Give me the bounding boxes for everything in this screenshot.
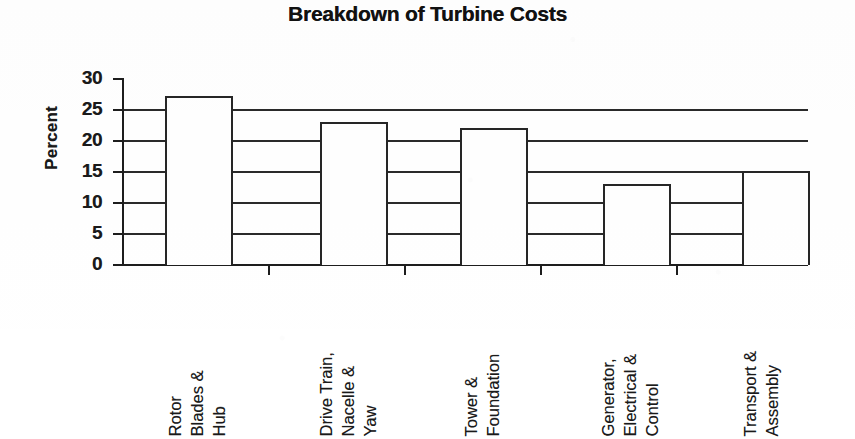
x-label-line: Generator, xyxy=(600,358,617,436)
x-label-line: Tower & xyxy=(463,376,480,436)
x-tick-mark-2 xyxy=(404,266,406,275)
y-tick-label-25: 25 xyxy=(62,99,102,118)
y-tick-label-15: 15 xyxy=(62,161,102,180)
x-label-line: Transport & xyxy=(742,350,759,436)
y-tick-label-0: 0 xyxy=(62,254,102,273)
x-tick-mark-1 xyxy=(268,266,270,275)
x-label-line: Assembly xyxy=(764,364,781,436)
x-label-line: Nacelle & xyxy=(340,365,357,436)
y-axis-tick-labels: 30 25 20 15 10 5 0 xyxy=(58,0,102,439)
bar-rotor-blades-hub[interactable] xyxy=(165,96,233,265)
x-label-line: Electrical & xyxy=(622,353,639,436)
y-tick-label-10: 10 xyxy=(62,192,102,211)
x-label-line: Hub xyxy=(211,406,228,436)
bar-tower-foundation[interactable] xyxy=(460,128,528,265)
x-label-line: Yaw xyxy=(362,405,379,436)
x-label-line: Rotor xyxy=(167,396,184,436)
bar-chart-plot-area: Percent 30 25 20 15 10 5 0 Rotor Blades … xyxy=(0,0,855,439)
x-label-line: Foundation xyxy=(485,353,502,436)
bar-transport-assembly[interactable] xyxy=(742,171,810,265)
y-tick-label-5: 5 xyxy=(62,223,102,242)
x-label-line: Control xyxy=(644,383,661,436)
y-tick-label-30: 30 xyxy=(62,68,102,87)
bar-drive-train-nacelle-yaw[interactable] xyxy=(320,122,388,265)
x-label-line: Drive Train, xyxy=(318,352,335,436)
y-tick-label-20: 20 xyxy=(62,130,102,149)
x-tick-mark-3 xyxy=(540,266,542,275)
bar-generator-electrical-control[interactable] xyxy=(603,184,671,265)
x-tick-mark-4 xyxy=(676,266,678,275)
x-label-line: Blades & xyxy=(189,370,206,436)
y-axis-line xyxy=(122,78,124,266)
